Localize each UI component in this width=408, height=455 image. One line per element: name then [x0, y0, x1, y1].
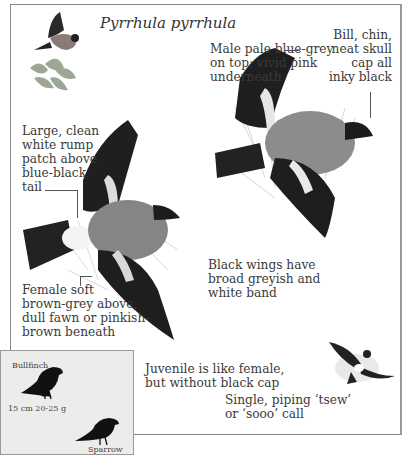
juvenile-annotation: Juvenile is like female, but without bla… — [145, 362, 284, 390]
male-leader-line — [284, 50, 300, 51]
sparrow-silhouette-icon — [73, 415, 121, 447]
species-title: Pyrrhula pyrrhula — [100, 14, 236, 32]
size-comparison-inset: Bullfinch 15 cm 20-25 g Sparrow — [0, 350, 134, 455]
rump-leader-line — [45, 190, 77, 191]
bullfinch-measurements: 15 cm 20-25 g — [8, 404, 66, 413]
bill-cap-annotation: Bill, chin, neat skull cap all inky blac… — [300, 28, 392, 84]
call-annotation: Single, piping ‘tsew’ or ‘sooo’ call — [225, 393, 351, 421]
female-leader-line-h — [80, 276, 92, 277]
female-colour-annotation: Female soft brown-grey above, dull fawn … — [22, 283, 149, 339]
bird-in-flight-illustration — [325, 338, 397, 390]
sparrow-label: Sparrow — [88, 445, 123, 454]
thumbnail-bird-illustration — [20, 8, 90, 96]
rump-leader-line-vertical — [77, 190, 78, 218]
rump-patch-annotation: Large, clean white rump patch above blue… — [22, 124, 99, 194]
female-leader-line — [80, 276, 81, 286]
bullfinch-silhouette-icon — [19, 363, 65, 403]
bill-leader-line — [370, 92, 371, 118]
wings-annotation: Black wings have broad greyish and white… — [208, 258, 320, 300]
